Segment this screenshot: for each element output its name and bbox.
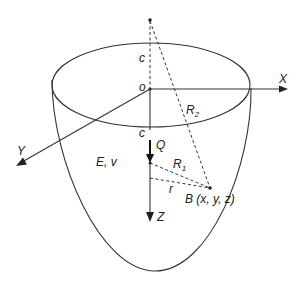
half-space-bowl bbox=[52, 80, 251, 271]
point-b bbox=[208, 186, 212, 190]
y-axis-label: Y bbox=[17, 144, 26, 158]
x-axis-arrow-icon bbox=[279, 86, 288, 93]
diagram-canvas: X Y Z o c c Q E, v R1 R2 r B (x, y, z) bbox=[0, 0, 302, 281]
r-line bbox=[150, 178, 210, 188]
y-axis bbox=[22, 89, 150, 162]
load-label: Q bbox=[156, 138, 165, 152]
y-axis-arrow-icon bbox=[16, 158, 27, 167]
point-b-label: B (x, y, z) bbox=[185, 192, 235, 206]
c-lower-label: c bbox=[139, 126, 145, 140]
c-upper-label: c bbox=[139, 51, 145, 65]
origin-label: o bbox=[139, 80, 146, 94]
free-surface-ellipse bbox=[52, 43, 250, 127]
r-label: r bbox=[169, 182, 174, 196]
x-axis-label: X bbox=[278, 72, 288, 86]
r1-label: R1 bbox=[173, 157, 186, 173]
r2-label: R2 bbox=[186, 103, 200, 119]
material-label: E, v bbox=[96, 155, 118, 169]
z-axis-label: Z bbox=[156, 210, 165, 224]
z-axis-arrow-icon bbox=[146, 212, 154, 222]
